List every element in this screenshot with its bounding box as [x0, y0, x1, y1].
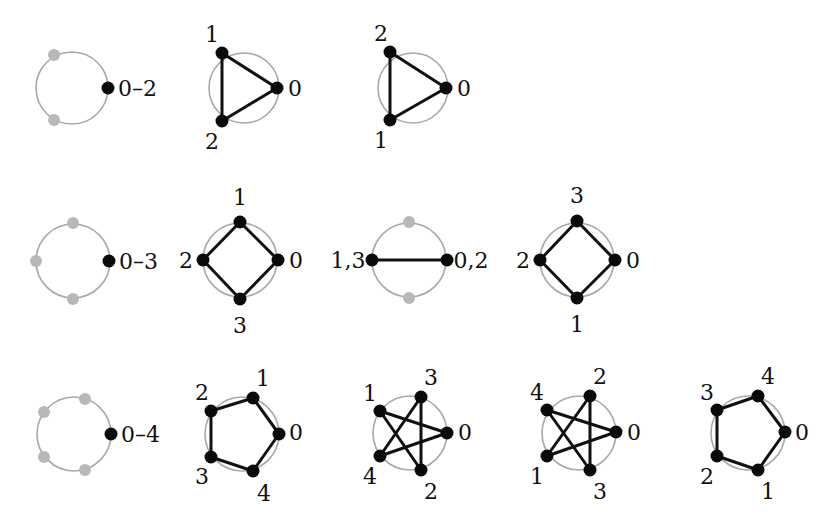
node	[374, 405, 387, 418]
node	[105, 428, 118, 441]
node-label: 0,2	[454, 248, 489, 273]
edge	[547, 410, 616, 432]
ring	[36, 52, 108, 124]
edge	[222, 88, 277, 121]
node-label: 0	[289, 248, 303, 273]
node	[441, 427, 454, 440]
node	[247, 392, 260, 405]
node-label: 4	[530, 380, 544, 405]
node-label: 0	[458, 420, 472, 445]
edge	[380, 397, 421, 456]
ghost-node	[38, 451, 50, 463]
node	[234, 293, 247, 306]
node-label: 0	[457, 76, 471, 101]
ring	[540, 223, 614, 297]
base-orbit: 0–4	[37, 393, 160, 476]
edge	[390, 88, 446, 120]
node	[609, 254, 622, 267]
node	[711, 450, 724, 463]
edge	[380, 433, 447, 456]
graph-panel: 03142	[363, 365, 472, 504]
node-label: 2	[593, 364, 607, 389]
node	[584, 464, 597, 477]
node-label: 0–2	[118, 76, 157, 101]
node-label: 4	[761, 364, 775, 389]
row-n3: 0–2012021	[36, 21, 471, 154]
node-label: 0	[288, 76, 302, 101]
node	[779, 426, 792, 439]
node-label: 1	[570, 312, 584, 337]
node-label: 0–4	[121, 422, 160, 447]
graph-panel: 01234	[195, 366, 303, 506]
node	[711, 404, 724, 417]
ghost-node	[30, 255, 42, 267]
ghost-node	[403, 216, 415, 228]
edge	[758, 396, 785, 432]
node	[384, 114, 397, 127]
ghost-node	[79, 393, 91, 405]
node-label: 1	[205, 22, 219, 47]
node-label: 2	[179, 248, 193, 273]
node-label: 0	[626, 248, 640, 273]
ghost-node	[403, 292, 415, 304]
node-label: 3	[570, 183, 584, 208]
node	[247, 465, 260, 478]
node-label: 3	[233, 313, 247, 338]
node	[374, 450, 387, 463]
graph-panel: 0321	[516, 183, 640, 337]
node-label: 2	[195, 380, 209, 405]
node	[197, 254, 210, 267]
node	[752, 390, 765, 403]
node-label: 1	[363, 381, 377, 406]
node	[102, 82, 115, 95]
node	[415, 391, 428, 404]
graph-panel: 04321	[700, 364, 809, 504]
node	[271, 82, 284, 95]
node-label: 3	[593, 479, 607, 504]
node-label: 0–3	[119, 249, 158, 274]
node	[610, 426, 623, 439]
node-label: 0	[627, 420, 641, 445]
node-label: 2	[516, 248, 530, 273]
node	[272, 254, 285, 267]
node	[584, 390, 597, 403]
node-label: 4	[257, 481, 271, 506]
ghost-node	[67, 293, 79, 305]
node-label: 4	[363, 464, 377, 489]
edge	[390, 52, 446, 88]
node	[216, 115, 229, 128]
ring	[36, 224, 110, 298]
base-orbit: 0–3	[30, 217, 158, 305]
node-label: 1,3	[331, 248, 366, 273]
node	[752, 464, 765, 477]
node-label: 3	[424, 365, 438, 390]
node-label: 3	[195, 464, 209, 489]
ring	[209, 53, 279, 123]
node	[441, 254, 454, 267]
node	[384, 46, 397, 59]
graph-panel: 02413	[530, 364, 641, 504]
node-label: 1	[761, 479, 775, 504]
ghost-node	[38, 406, 50, 418]
node-label: 1	[233, 185, 247, 210]
edge	[211, 398, 253, 411]
node	[103, 255, 116, 268]
ghost-node	[79, 464, 91, 476]
node-label: 0	[795, 420, 809, 445]
node	[541, 404, 554, 417]
graph-panel: 012	[205, 22, 302, 154]
node	[366, 254, 379, 267]
node	[205, 405, 218, 418]
ghost-node	[48, 114, 60, 126]
edge	[222, 53, 277, 88]
node	[273, 428, 286, 441]
diagram-canvas: 0–20120210–301230,21,303210–401234031420…	[0, 0, 834, 523]
edge	[380, 411, 447, 433]
node-label: 2	[205, 129, 219, 154]
ghost-node	[48, 49, 60, 61]
graph-panel: 0,21,3	[331, 216, 489, 304]
node	[534, 254, 547, 267]
ghost-node	[67, 217, 79, 229]
node	[440, 82, 453, 95]
node	[415, 464, 428, 477]
